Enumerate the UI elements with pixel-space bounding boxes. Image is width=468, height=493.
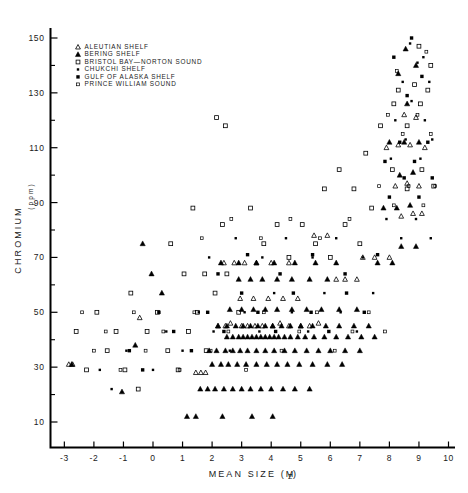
data-point [416, 139, 421, 144]
axes-layer: 1030507090110130150-3-2-1012345678910 [29, 28, 455, 463]
data-point [417, 195, 420, 198]
data-point [327, 330, 330, 333]
data-point [366, 323, 371, 328]
data-point [236, 260, 241, 265]
data-point [221, 223, 225, 227]
data-point [249, 334, 254, 339]
data-point [93, 349, 96, 352]
data-point [279, 323, 284, 328]
y-axis-tick-label: 150 [29, 33, 45, 43]
y-axis-tick-label: 110 [29, 143, 44, 153]
legend-layer: ALEUTIAN SHELFBERING SHELFBRISTOL BAY—NO… [75, 43, 202, 87]
scatter-plot-svg: 1030507090110130150-3-2-1012345678910 AL… [0, 0, 468, 493]
data-point [269, 386, 274, 391]
chart-figure: 1030507090110130150-3-2-1012345678910 AL… [0, 0, 468, 493]
data-point [198, 370, 203, 375]
y-axis-title: CHROMIUM [13, 206, 23, 273]
data-point [215, 323, 220, 328]
data-point [362, 256, 364, 258]
data-point [407, 203, 412, 208]
data-point [323, 323, 328, 328]
x-axis-tick-label: 3 [239, 453, 244, 463]
data-point [345, 291, 348, 294]
data-point [387, 113, 390, 116]
data-point [190, 349, 193, 352]
data-point [337, 323, 342, 328]
x-axis-tick-label: 6 [328, 453, 333, 463]
data-point [420, 168, 424, 172]
data-point [276, 334, 281, 339]
data-point [162, 330, 165, 333]
data-point [245, 348, 250, 353]
data-point [184, 414, 189, 419]
data-point [316, 311, 319, 314]
data-point [220, 414, 225, 419]
data-point [230, 218, 233, 221]
data-point [354, 307, 359, 312]
data-point [223, 124, 227, 128]
series-1 [69, 46, 421, 418]
data-point [208, 256, 210, 258]
data-point [270, 414, 275, 419]
data-point [422, 56, 424, 58]
data-point [239, 307, 244, 312]
data-point [260, 277, 265, 282]
data-point [405, 94, 408, 97]
data-point [410, 100, 412, 102]
data-point [359, 334, 364, 339]
data-point [401, 133, 404, 136]
data-point [351, 323, 356, 328]
data-point [287, 260, 292, 265]
data-point [263, 334, 268, 339]
data-point [77, 68, 79, 70]
data-point [417, 184, 422, 189]
data-point [123, 368, 127, 372]
data-point [254, 348, 259, 353]
data-point [434, 185, 437, 188]
axis-frame [51, 28, 456, 448]
data-point [149, 271, 154, 276]
data-point [325, 233, 330, 238]
data-point [337, 307, 342, 312]
data-point [425, 50, 428, 53]
x-axis-tick-label: 0 [150, 453, 155, 463]
data-point [307, 277, 312, 282]
data-point [375, 260, 380, 265]
data-point [235, 237, 237, 239]
data-point [316, 321, 321, 326]
data-point [388, 195, 391, 198]
data-point [119, 389, 124, 394]
data-point [385, 218, 387, 220]
data-point [311, 334, 316, 339]
data-point [236, 277, 241, 282]
data-point [392, 102, 396, 106]
data-point [289, 307, 294, 312]
y-axis-tick-label: 10 [34, 417, 45, 427]
data-point [218, 362, 223, 367]
x-axis-tick-label: -1 [119, 453, 128, 463]
x-axis-tick-label: -3 [60, 453, 69, 463]
data-point [370, 206, 374, 210]
data-point [431, 138, 433, 140]
data-point [351, 330, 354, 333]
data-point [136, 387, 140, 391]
legend-item-label: BERING SHELF [85, 50, 141, 57]
data-point [339, 311, 341, 313]
data-point [387, 139, 392, 144]
data-point [273, 292, 275, 294]
data-point [230, 334, 235, 339]
data-point [224, 334, 229, 339]
data-point [396, 88, 400, 92]
data-point [410, 36, 413, 39]
data-point [426, 141, 429, 144]
data-point [333, 349, 336, 352]
data-point [384, 330, 387, 333]
data-point [230, 386, 235, 391]
x-axis-tick-label: 7 [357, 453, 362, 463]
data-point [426, 88, 430, 92]
data-point [354, 277, 359, 282]
data-point [429, 133, 432, 136]
data-point [292, 348, 297, 353]
data-point [256, 311, 259, 314]
data-point [291, 311, 293, 313]
